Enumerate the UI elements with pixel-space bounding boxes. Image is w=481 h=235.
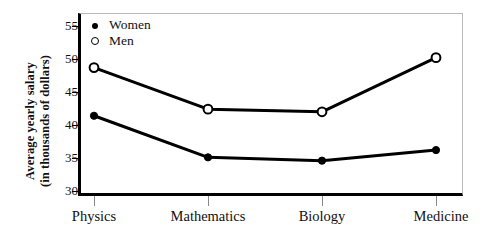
x-tick-mark-biology: [322, 196, 323, 206]
filled-circle-icon: [88, 17, 102, 32]
legend-label-women: Women: [102, 17, 151, 32]
y-axis-ticks: 55 50 45 40 35 30: [42, 0, 78, 235]
x-tick-label-mathematics: Mathematics: [148, 207, 268, 225]
line-chart: Average yearly salary (in thousands of d…: [0, 0, 481, 235]
legend-item-men: Men: [88, 33, 151, 48]
x-tick-mark-physics: [94, 196, 95, 206]
legend-label-men: Men: [102, 33, 134, 48]
open-circle-icon: [88, 33, 102, 48]
legend: Women Men: [88, 17, 151, 49]
y-axis-title-line-1: Average yearly salary: [23, 21, 38, 221]
x-tick-label-biology: Biology: [262, 207, 382, 225]
x-tick-label-physics: Physics: [34, 207, 154, 225]
x-tick-label-medicine: Medicine: [381, 207, 481, 225]
x-tick-mark-mathematics: [208, 196, 209, 206]
legend-item-women: Women: [88, 17, 151, 32]
x-tick-mark-medicine: [436, 196, 437, 206]
